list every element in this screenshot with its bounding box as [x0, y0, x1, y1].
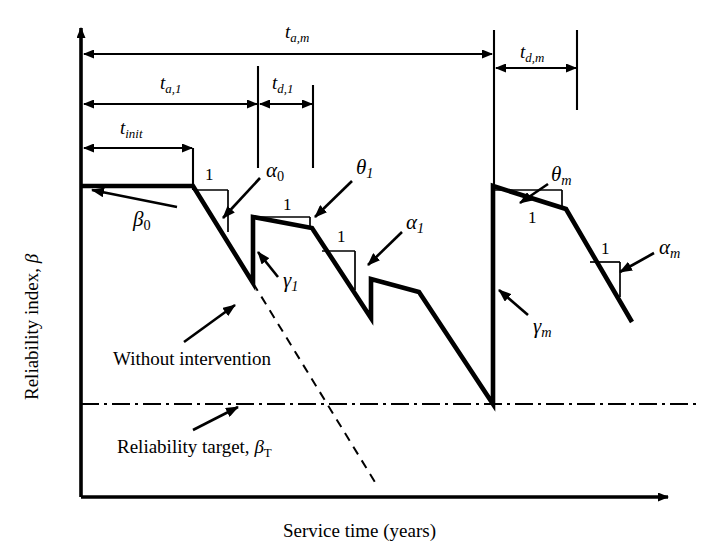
- label-alpha-1: α1: [406, 212, 424, 235]
- label-alpha-0: α0: [266, 160, 284, 183]
- reliability-profile-figure: Reliability index, β Service time (years…: [0, 0, 718, 556]
- label-alpha-m: αm: [659, 237, 680, 260]
- arrow-alpha-m: [620, 253, 654, 272]
- slope-alpha-1-ratio-label: 1: [337, 228, 346, 245]
- arrow-theta-1: [315, 181, 352, 217]
- label-gamma-1: γ1: [283, 270, 298, 293]
- slope-alpha-m-ratio-label: 1: [601, 240, 610, 257]
- text-without-intervention: Without intervention: [113, 349, 271, 368]
- dimension-label-t_a_1: ta,1: [160, 73, 181, 96]
- label-gamma-m: γm: [533, 316, 552, 339]
- diagram-canvas: [0, 0, 718, 556]
- dimension-label-t_d_m: td,m: [520, 42, 544, 65]
- x-axis-label: Service time (years): [283, 521, 436, 540]
- dimension-label-t_d_1: td,1: [272, 73, 293, 96]
- arrow-gamma-1: [258, 252, 278, 277]
- arrow-beta-0: [92, 190, 177, 207]
- y-axis-label: Reliability index, β: [22, 254, 41, 400]
- slope-theta-m-ratio-label: 1: [528, 209, 537, 226]
- arrow-gamma-m: [499, 290, 528, 315]
- dimension-label-t_a_m: ta,m: [285, 22, 309, 45]
- dimension-label-t_init: tinit: [120, 118, 143, 141]
- arrow-reliability-target: [193, 407, 238, 430]
- text-reliability-target: Reliability target, βT: [117, 437, 272, 460]
- slope-alpha-0-ratio-label: 1: [205, 166, 214, 183]
- label-beta-0: β0: [133, 209, 151, 232]
- label-theta-1: θ1: [356, 157, 373, 180]
- axis-group: [81, 28, 668, 497]
- slope-theta-1-ratio-label: 1: [283, 196, 292, 213]
- reliability-profile-curve: [81, 186, 632, 404]
- label-theta-m: θm: [551, 164, 572, 187]
- arrow-alpha-1: [368, 232, 402, 265]
- arrow-without-intervention: [184, 305, 235, 342]
- dimension-arrow-lines: [84, 54, 576, 148]
